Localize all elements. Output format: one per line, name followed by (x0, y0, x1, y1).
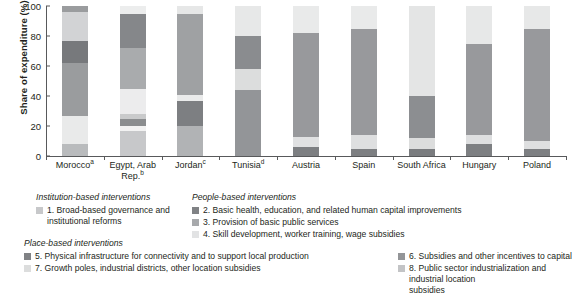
y-axis-tick: 100 (25, 1, 46, 12)
bar-segment-s6 (177, 14, 203, 95)
legend-swatch (398, 253, 405, 260)
legend-swatch (192, 207, 199, 214)
category-name: South Africa (397, 160, 446, 170)
bar-segment-s8 (62, 41, 88, 64)
x-axis-category-label: Hungary (450, 160, 508, 171)
category-name: Morocco (56, 160, 91, 170)
y-axis-label: Share of expenditure (%) (18, 0, 29, 133)
bar-segment-s2 (351, 149, 377, 157)
category-footnote: b (140, 169, 144, 176)
bar-segment-s6 (466, 44, 492, 136)
stacked-bar[interactable] (120, 6, 146, 156)
bar-segment-s4 (409, 138, 435, 149)
x-axis-category-label: Jordanc (162, 160, 220, 171)
bar-group (219, 6, 277, 156)
legend-swatch (36, 207, 43, 214)
bar-segment-s2 (293, 147, 319, 156)
stacked-bar[interactable] (466, 6, 492, 156)
legend-swatch (192, 219, 199, 226)
legend-item[interactable]: 1. Broad-based governance and institutio… (36, 205, 206, 227)
bar-segment-s6 (62, 6, 88, 12)
bar-group (393, 6, 451, 156)
category-footnote: c (203, 158, 206, 165)
bar-segment-s6 (351, 29, 377, 136)
bar-segment-s7 (524, 6, 550, 29)
category-name: Poland (523, 160, 551, 170)
x-axis-category-label: Poland (508, 160, 566, 171)
bar-segment-s1 (120, 131, 146, 157)
x-axis-category-label: Tunisiad (219, 160, 277, 171)
bar-segment-s2 (524, 149, 550, 157)
legend-item-label: 1. Broad-based governance and institutio… (47, 205, 170, 227)
x-axis-category-label: Spain (335, 160, 393, 171)
x-axis-category-label: Egypt, Arab Rep.b (104, 160, 162, 181)
legend-item[interactable]: 8. Public sector industrialization and i… (398, 263, 574, 296)
bar-segment-s4 (120, 114, 146, 119)
stacked-bar[interactable] (177, 6, 203, 156)
bar-segment-s4 (177, 95, 203, 101)
y-axis-tick: 60 (30, 61, 46, 72)
bar-group (162, 6, 220, 156)
legend-item[interactable]: 6. Subsidies and other incentives to cap… (398, 251, 574, 262)
category-name: Jordan (175, 160, 203, 170)
category-name: Egypt, Arab Rep. (109, 160, 156, 181)
x-axis-tick (566, 156, 567, 160)
bar-group (450, 6, 508, 156)
legend-item-label: 8. Public sector industrialization and i… (409, 263, 574, 296)
bar-segment-s1 (62, 144, 88, 156)
stacked-bar[interactable] (409, 6, 435, 156)
legend-group-heading: People-based interventions (192, 192, 532, 203)
bar-segment-s7 (466, 6, 492, 44)
legend-group-heading: Institution-based interventions (36, 192, 206, 203)
bar-segment-s4 (62, 116, 88, 145)
legend-item[interactable]: 2. Basic health, education, and related … (192, 205, 532, 216)
legend-group: People-based interventions2. Basic healt… (192, 192, 532, 241)
legend-group: Place-based interventions5. Physical inf… (24, 238, 404, 275)
stacked-bar[interactable] (524, 6, 550, 156)
legend-item-label: 3. Provision of basic public services (203, 217, 339, 228)
chart-legend: Institution-based interventions1. Broad-… (0, 190, 574, 283)
legend-item[interactable]: 7. Growth poles, industrial districts, o… (24, 263, 404, 274)
x-axis-category-label: Austria (277, 160, 335, 171)
legend-group-heading: Place-based interventions (24, 238, 404, 249)
bar-segment-s6 (293, 33, 319, 137)
bar-segment-s4 (235, 6, 261, 36)
x-axis-category-label: South Africa (393, 160, 451, 171)
bar-segment-s7 (62, 12, 88, 41)
legend-item-label: 5. Physical infrastructure for connectiv… (35, 251, 309, 262)
x-axis-line (46, 156, 566, 157)
category-name: Hungary (462, 160, 496, 170)
legend-item[interactable]: 5. Physical infrastructure for connectiv… (24, 251, 404, 262)
x-axis-category-label: Moroccoa (46, 160, 104, 171)
bar-group (508, 6, 566, 156)
bar-segment-s5 (409, 96, 435, 138)
bar-segment-s7 (235, 69, 261, 90)
bar-segment-s3 (120, 119, 146, 127)
bar-segment-s8 (235, 36, 261, 69)
bar-segment-s7 (351, 6, 377, 29)
bar-segment-s7 (293, 6, 319, 33)
stacked-bar[interactable] (62, 6, 88, 156)
category-footnote: d (261, 158, 265, 165)
legend-item-label: 2. Basic health, education, and related … (203, 205, 461, 216)
bar-segment-s6 (62, 63, 88, 116)
stacked-bar[interactable] (293, 6, 319, 156)
bar-segment-s4 (120, 126, 146, 131)
legend-group: 6. Subsidies and other incentives to cap… (398, 238, 574, 297)
category-name: Spain (352, 160, 375, 170)
bar-segment-s8 (120, 14, 146, 49)
legend-swatch (192, 231, 199, 238)
bar-segment-s3 (177, 126, 203, 156)
y-axis-tick: 40 (30, 91, 46, 102)
stacked-bar-chart: Share of expenditure (%) 100806040200 Mo… (0, 0, 574, 190)
bar-group (277, 6, 335, 156)
stacked-bar[interactable] (235, 6, 261, 156)
legend-item[interactable]: 3. Provision of basic public services (192, 217, 532, 228)
legend-item-label: 7. Growth poles, industrial districts, o… (35, 263, 260, 274)
plot-area: 100806040200 (46, 6, 566, 156)
legend-swatch (398, 265, 405, 272)
stacked-bar[interactable] (351, 6, 377, 156)
category-name: Tunisia (232, 160, 261, 170)
category-footnote: a (90, 158, 94, 165)
bar-segment-s7 (409, 6, 435, 96)
